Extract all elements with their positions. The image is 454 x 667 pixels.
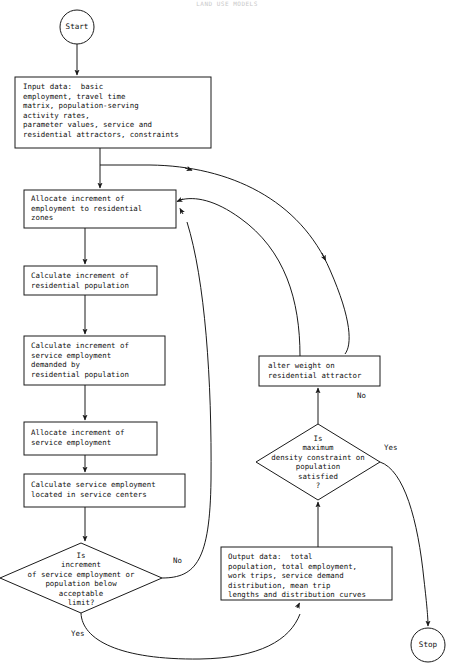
input-data-box-label: Input data: basic employment, travel tim… xyxy=(23,82,179,140)
density-decision-diamond-label: Is maximum density constraint on populat… xyxy=(248,434,388,490)
output-data-box-label: Output data: total population, total emp… xyxy=(228,552,366,600)
increment-decision-diamond-label: Is increment of service employment or po… xyxy=(1,551,161,607)
allocate-employment-box-label: Allocate increment of employment to resi… xyxy=(31,194,142,223)
edge-alter-weight-to-allocate-arrow xyxy=(177,199,183,202)
flowchart-canvas: LAND USE MODELS xyxy=(0,0,454,667)
edge-alter-weight-to-allocate xyxy=(180,199,300,356)
calc-service-employment-box-label: Calculate increment of service employmen… xyxy=(31,341,129,379)
edge-input-to-alter-weight-arrow-low xyxy=(322,253,326,261)
calc-residential-population-box-label: Calculate increment of residential popul… xyxy=(31,271,129,290)
stop-terminator-label: Stop xyxy=(413,640,443,649)
alter-weight-box-label: alter weight on residential attractor xyxy=(268,361,361,380)
calc-service-centers-box-label: Calculate service employment located in … xyxy=(31,480,156,499)
edge-label-density-no: No xyxy=(357,391,366,400)
start-terminator-label: Start xyxy=(62,22,92,31)
edge-increment-no-arrow xyxy=(180,209,183,215)
edge-increment-no-to-allocate xyxy=(162,222,211,578)
edge-increment-yes-arrow xyxy=(297,603,300,608)
edge-label-increment-yes: Yes xyxy=(71,629,84,638)
edge-label-density-yes: Yes xyxy=(384,443,397,452)
edge-label-increment-no: No xyxy=(173,556,182,565)
edge-increment-yes-to-output xyxy=(81,613,300,659)
allocate-service-employment-box-label: Allocate increment of service employment xyxy=(31,428,124,447)
